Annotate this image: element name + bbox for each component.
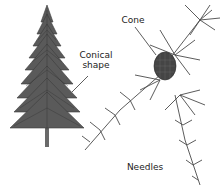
label-cone: Cone: [120, 15, 146, 25]
conical-tree-illustration: [10, 5, 84, 147]
conical-shape-leader-line: [72, 76, 88, 92]
cone-leader-line: [135, 27, 156, 55]
conifer-diagram: [0, 0, 223, 191]
label-needles: Needles: [124, 162, 166, 172]
needle-branch-illustration: [82, 5, 220, 185]
label-conical-shape: Conical shape: [78, 50, 114, 70]
